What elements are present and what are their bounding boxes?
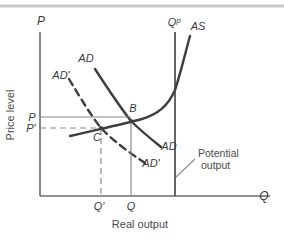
x-axis-title: Real output [112,218,168,230]
output-tick-Q-label: Q [127,200,136,212]
point-C-marker [99,126,103,130]
y-axis-tip-label: P [37,14,45,28]
potential-output-annotation-line2: output [201,159,230,171]
output-tick-Q-prime-label: Q' [94,200,106,212]
y-axis-title: Price level [4,90,16,141]
potential-output-line-label: Qᵖ [168,16,182,28]
diagram-canvas: P Q AD AD' AD AD' AS Qᵖ B C P P' Q' Q Po… [0,0,284,241]
ad-lower-label: AD [160,140,176,152]
price-tick-P-prime-label: P' [26,122,36,134]
ad-prime-upper-label: AD' [51,69,70,81]
point-B-label: B [129,102,136,114]
x-axis-tip-label: Q [259,189,268,203]
point-C-label: C [93,131,101,143]
point-B-marker [129,119,133,123]
potential-output-annotation-line1: Potential [198,147,239,159]
economics-diagram: P Q AD AD' AD AD' AS Qᵖ B C P P' Q' Q Po… [0,0,284,241]
potential-output-leader-line [176,159,195,177]
as-curve-label: AS [190,20,206,32]
ad-curve [95,69,161,147]
ad-prime-lower-label: AD' [141,157,160,169]
ad-upper-label: AD [77,52,93,64]
